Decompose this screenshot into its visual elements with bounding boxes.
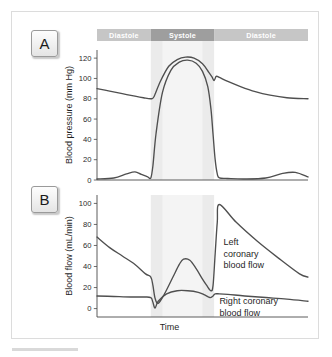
phase-label-diastole-0: Diastole: [109, 31, 139, 40]
panel-b-tick-labels: 020406080100: [79, 199, 97, 313]
caption-rule: [12, 348, 78, 351]
y-tick-label-80: 80: [83, 220, 91, 229]
axis-title-x-time: Time: [160, 322, 180, 332]
figure-root: A B DiastoleSystoleDiastole 020406080100…: [0, 0, 332, 357]
panel-a-axis-title-y: Blood pressure (mm Hg): [64, 66, 74, 164]
panel-b-annotations: Leftcoronaryblood flowRight coronarybloo…: [219, 237, 278, 317]
annotation-right-coronary-blood-flow-line-0: Right coronary: [219, 296, 278, 306]
cardiac-cycle-chart: DiastoleSystoleDiastole 020406080100120 …: [0, 0, 332, 357]
panel-a-tick-labels: 020406080100120: [79, 54, 97, 185]
y-tick-label-0: 0: [87, 304, 91, 313]
y-tick-label-100: 100: [79, 199, 92, 208]
panel-b-axis-title-y: Blood flow (mL/min): [64, 216, 74, 296]
y-tick-label-40: 40: [83, 262, 91, 271]
annotation-right-coronary-blood-flow-line-1: blood flow: [219, 308, 260, 318]
y-tick-label-100: 100: [79, 74, 92, 83]
phase-bar: DiastoleSystoleDiastole: [97, 29, 308, 41]
y-tick-label-80: 80: [83, 94, 91, 103]
panel-a-systole-shading: [151, 41, 214, 180]
panel-a-plot: 020406080100120 Blood pressure (mm Hg): [64, 41, 308, 185]
phase-label-systole-1: Systole: [169, 31, 196, 40]
y-tick-label-20: 20: [83, 283, 91, 292]
shaded-region-systole-core: [162, 195, 202, 317]
annotation-left-coronary-blood-flow-line-0: Left: [224, 237, 240, 247]
y-tick-label-120: 120: [79, 54, 92, 63]
shaded-region-systole-core: [162, 41, 202, 180]
y-tick-label-20: 20: [83, 155, 91, 164]
y-tick-label-0: 0: [87, 176, 91, 185]
y-tick-label-60: 60: [83, 241, 91, 250]
panel-b-plot: 020406080100 Leftcoronaryblood flowRight…: [64, 195, 308, 332]
annotation-left-coronary-blood-flow-line-2: blood flow: [224, 260, 265, 270]
annotation-left-coronary-blood-flow-line-1: coronary: [224, 249, 260, 259]
y-tick-label-40: 40: [83, 135, 91, 144]
phase-label-diastole-2: Diastole: [246, 31, 276, 40]
y-tick-label-60: 60: [83, 115, 91, 124]
